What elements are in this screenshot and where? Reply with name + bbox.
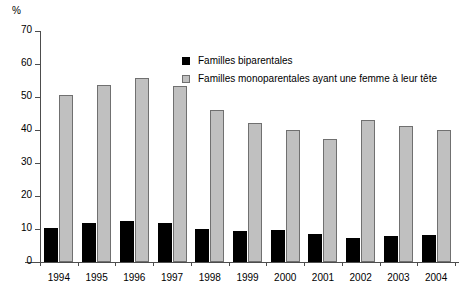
bar-group-1996 [120,31,149,262]
x-tick-mark [153,262,154,266]
bar-monoparentales-2001 [323,139,337,262]
y-tick-label: 0 [26,255,32,267]
bar-monoparentales-2004 [437,130,451,262]
bar-monoparentales-1997 [173,86,187,262]
bar-group-1994 [44,31,73,262]
bar-biparentales-1996 [120,221,134,262]
chart-legend: Familles biparentales Familles monoparen… [182,55,437,91]
bar-biparentales-1995 [82,223,96,262]
bar-monoparentales-2002 [361,120,375,262]
legend-item-monoparentales: Familles monoparentales ayant une femme … [182,73,437,84]
x-tick-mark [115,262,116,266]
y-tick-label: 20 [21,189,32,201]
legend-swatch-dark-icon [182,57,190,65]
bar-biparentales-1997 [158,223,172,262]
y-tick-label: 40 [21,123,32,135]
x-tick-mark [229,262,230,266]
legend-label-monoparentales: Familles monoparentales ayant une femme … [198,73,437,84]
y-tick-0: 0 [0,262,40,263]
x-axis-label-2004: 2004 [414,272,458,284]
bar-biparentales-2002 [346,238,360,262]
bar-biparentales-2004 [422,235,436,262]
x-tick-mark [380,262,381,266]
bar-biparentales-1999 [233,231,247,262]
bar-biparentales-2003 [384,236,398,262]
y-tick-50: 50 [0,97,40,98]
y-tick-label: 70 [21,24,32,36]
legend-swatch-light-icon [182,75,190,83]
y-axis-unit-label: % [12,5,21,16]
y-tick-label: 50 [21,90,32,102]
y-tick-20: 20 [0,196,40,197]
y-tick-label: 60 [21,57,32,69]
bar-monoparentales-1994 [59,95,73,262]
x-tick-mark [417,262,418,266]
legend-label-biparentales: Familles biparentales [198,55,293,66]
x-tick-mark [455,262,456,266]
bar-biparentales-2000 [271,230,285,262]
bar-biparentales-1998 [195,229,209,262]
y-tick-10: 10 [0,229,40,230]
x-tick-mark [342,262,343,266]
x-tick-mark [78,262,79,266]
bar-monoparentales-2000 [286,130,300,262]
x-tick-mark [40,262,41,266]
bar-monoparentales-2003 [399,126,413,262]
bar-biparentales-2001 [308,234,322,262]
x-axis-line [25,262,459,263]
bar-monoparentales-1998 [210,110,224,262]
x-tick-mark [191,262,192,266]
bar-biparentales-1994 [44,228,58,262]
bar-monoparentales-1999 [248,123,262,262]
x-tick-mark [266,262,267,266]
bar-monoparentales-1996 [135,78,149,262]
y-tick-label: 10 [21,222,32,234]
bar-monoparentales-1995 [97,85,111,262]
bar-group-1995 [82,31,111,262]
x-tick-mark [304,262,305,266]
legend-item-biparentales: Familles biparentales [182,55,437,66]
y-tick-60: 60 [0,64,40,65]
bar-chart: % 010203040506070 1994199519961997199819… [0,0,465,300]
y-tick-40: 40 [0,130,40,131]
y-tick-30: 30 [0,163,40,164]
y-tick-label: 30 [21,156,32,168]
y-tick-70: 70 [0,31,40,32]
